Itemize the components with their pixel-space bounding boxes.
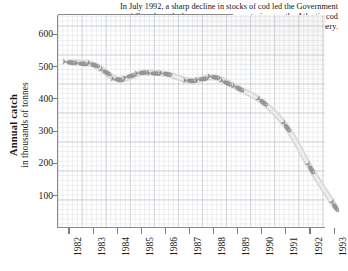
x-axis-tick — [189, 228, 190, 234]
x-axis-tick-labels: 1982198319841985198619871988198919901991… — [57, 237, 325, 269]
x-axis-tick-label: 1984 — [122, 237, 132, 256]
x-axis-tick-label: 1982 — [74, 237, 84, 256]
x-axis-tick-label: 1986 — [170, 237, 180, 256]
x-axis-tick — [309, 228, 310, 234]
y-axis-tick-label: 300 — [25, 126, 53, 136]
data-series — [58, 15, 326, 228]
x-axis-tick-label: 1987 — [194, 237, 204, 256]
x-axis-tick-label: 1989 — [242, 237, 252, 256]
series-band-core — [70, 62, 335, 206]
x-axis-tick — [285, 228, 286, 234]
y-axis-tick-label: 600 — [25, 29, 53, 39]
x-axis-tick — [141, 228, 142, 234]
x-axis-tick-label: 1993 — [339, 237, 348, 256]
plot-area — [57, 15, 325, 228]
x-axis-tick — [165, 228, 166, 234]
x-axis-tick-label: 1983 — [98, 237, 108, 256]
x-axis-tick-label: 1991 — [290, 237, 300, 256]
x-axis-tick — [334, 228, 335, 234]
y-axis-tick-label: 400 — [25, 94, 53, 104]
x-axis-tick — [93, 228, 94, 234]
x-axis-tick — [261, 228, 262, 234]
x-axis-tick — [68, 228, 69, 234]
x-axis-tick — [213, 228, 214, 234]
x-axis-tick-label: 1988 — [218, 237, 228, 256]
y-axis-tick-labels: 100200300400500600 — [20, 15, 53, 228]
y-axis-tick-label: 100 — [25, 191, 53, 201]
x-axis-tick-label: 1990 — [266, 237, 276, 256]
x-axis-tick-label: 1992 — [315, 237, 325, 256]
x-axis-tick-label: 1985 — [146, 237, 156, 256]
y-axis-tick-label: 500 — [25, 62, 53, 72]
x-axis-tick — [237, 228, 238, 234]
y-axis-title-main: Annual catch — [8, 82, 20, 168]
series-band — [70, 62, 335, 206]
y-axis-tick-label: 200 — [25, 158, 53, 168]
x-axis-tick — [117, 228, 118, 234]
